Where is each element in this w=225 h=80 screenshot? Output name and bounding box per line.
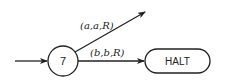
halt-node: HALT xyxy=(145,49,210,73)
transition-a-label: (a,a,R) xyxy=(80,20,114,31)
state-7-label: 7 xyxy=(60,55,66,67)
diagram-svg: 7 (a,a,R) (b,b,R) HALT xyxy=(0,0,225,80)
halt-label: HALT xyxy=(165,56,190,67)
state-diagram: 7 (a,a,R) (b,b,R) HALT xyxy=(0,0,225,80)
state-7-node: 7 xyxy=(48,46,78,76)
transition-b-label: (b,b,R) xyxy=(90,47,125,58)
transition-a-arrow xyxy=(75,12,145,52)
